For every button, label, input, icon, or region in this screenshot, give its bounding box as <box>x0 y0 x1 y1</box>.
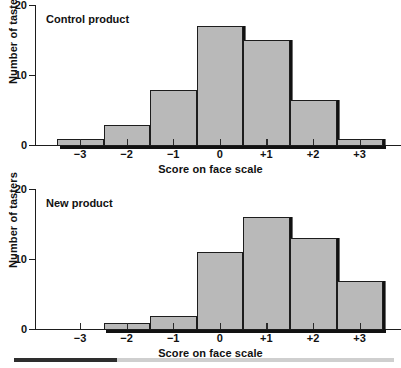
x-tick-label-plus2: +2 <box>298 148 328 160</box>
bar-zero <box>197 26 244 146</box>
x-tick-label-minus2: −2 <box>112 148 142 160</box>
x-axis-title: Score on face scale <box>36 163 385 175</box>
bar-minus1 <box>150 90 197 146</box>
y-tick-label-20: 20 <box>0 184 27 195</box>
x-tick-label-zero: 0 <box>205 148 235 160</box>
y-tick-label-10: 10 <box>0 70 27 81</box>
x-tick-label-minus3: −3 <box>65 332 95 344</box>
x-tick-label-plus1: +1 <box>251 332 281 344</box>
x-tick-label-plus2: +2 <box>298 332 328 344</box>
histogram-figure: Number of tasters Control product Score … <box>0 0 401 368</box>
bar-plus1 <box>243 217 290 330</box>
x-tick-label-minus1: −1 <box>158 148 188 160</box>
x-tick-label-zero: 0 <box>205 332 235 344</box>
plot-area <box>36 5 385 146</box>
footer-progress-fill <box>14 358 117 362</box>
plot-area <box>36 189 385 330</box>
y-tick-label-20: 20 <box>0 0 27 11</box>
bar-series <box>36 5 385 146</box>
x-tick-label-minus3: −3 <box>65 148 95 160</box>
bar-series <box>36 189 385 330</box>
panel-control-product: Number of tasters Control product Score … <box>0 0 401 184</box>
x-tick-label-plus3: +3 <box>345 148 375 160</box>
y-tick-label-0: 0 <box>0 140 27 151</box>
bar-plus2 <box>290 238 337 330</box>
footer-progress-track[interactable] <box>14 358 394 362</box>
x-tick-label-plus3: +3 <box>345 332 375 344</box>
y-tick-label-0: 0 <box>0 324 27 335</box>
x-tick-label-minus2: −2 <box>112 332 142 344</box>
y-tick-label-10: 10 <box>0 254 27 265</box>
panel-new-product: Number of tasters New product Score on f… <box>0 184 401 368</box>
bar-zero <box>197 252 244 330</box>
x-tick-label-minus1: −1 <box>158 332 188 344</box>
bar-plus1 <box>243 40 290 146</box>
x-tick-label-plus1: +1 <box>251 148 281 160</box>
